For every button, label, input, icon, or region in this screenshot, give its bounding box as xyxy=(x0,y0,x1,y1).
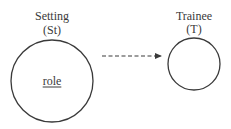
trainee-abbrev: (T) xyxy=(186,23,201,36)
role-label: role xyxy=(43,75,62,88)
setting-abbrev: (St) xyxy=(43,24,61,37)
trainee-circle xyxy=(168,38,220,90)
setting-title: Setting xyxy=(35,10,69,23)
setting-trainee-diagram: Setting (St) role Trainee (T) xyxy=(0,0,231,129)
